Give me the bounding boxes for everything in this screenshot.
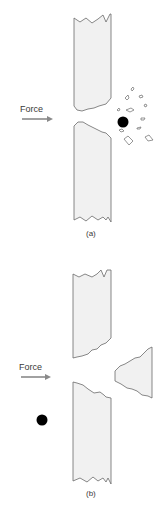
plate-b-upper (73, 270, 111, 358)
panel-a: Force (a) (20, 14, 153, 238)
plate-a-lower (74, 122, 111, 222)
force-arrow-a-head (47, 116, 53, 122)
projectile-b (37, 415, 48, 426)
force-arrow-b-head (45, 374, 51, 380)
ejected-plug-b (115, 347, 152, 398)
fragments-a (117, 87, 153, 145)
caption-b: (b) (86, 489, 96, 498)
projectile-a (118, 117, 129, 128)
diagram-canvas: Force (a) Force (b) (0, 0, 164, 507)
force-label-b: Force (19, 362, 42, 372)
force-label-a: Force (20, 104, 43, 114)
caption-a: (a) (86, 229, 96, 238)
plate-b-lower (73, 382, 111, 484)
plate-a-upper (74, 14, 111, 111)
panel-b: Force (b) (19, 270, 152, 498)
